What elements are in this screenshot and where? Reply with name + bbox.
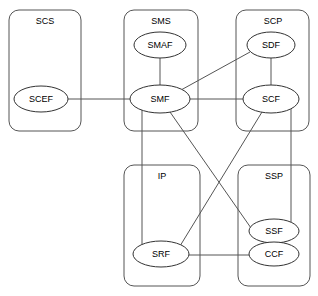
- node-label-smf: SMF: [151, 94, 171, 104]
- domain-label-scs: SCS: [36, 16, 55, 26]
- node-label-scf: SCF: [262, 94, 281, 104]
- domain-label-sms: SMS: [151, 16, 171, 26]
- node-label-srf: SRF: [152, 249, 171, 259]
- node-label-ccf: CCF: [265, 249, 284, 259]
- domain-label-scp: SCP: [264, 16, 283, 26]
- network-diagram: SCSSMSSCPIPSSP SCEFSMAFSMFSDFSCFSRFSSFCC…: [0, 0, 318, 296]
- domain-box-scs[interactable]: [9, 10, 81, 131]
- node-label-sdf: SDF: [262, 40, 281, 50]
- node-label-scef: SCEF: [29, 94, 54, 104]
- node-label-smaf: SMAF: [147, 40, 173, 50]
- node-label-ssf: SSF: [265, 226, 283, 236]
- domain-label-ssp: SSP: [265, 171, 283, 181]
- domain-label-ip: IP: [158, 171, 167, 181]
- network-diagram-canvas: SCSSMSSCPIPSSP SCEFSMAFSMFSDFSCFSRFSSFCC…: [0, 0, 318, 296]
- domain-box-ip[interactable]: [124, 165, 200, 286]
